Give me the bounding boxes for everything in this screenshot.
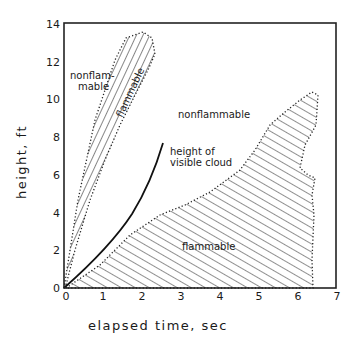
svg-text:6: 6 xyxy=(295,290,302,303)
annotation-nonflammable-left-2: mable xyxy=(78,81,109,92)
svg-text:14: 14 xyxy=(46,18,60,31)
y-axis-title: height, ft xyxy=(14,125,29,199)
svg-text:2: 2 xyxy=(139,290,146,303)
annotation-cloud-2: visible cloud xyxy=(170,157,232,168)
svg-text:7: 7 xyxy=(334,290,341,303)
annotation-nonflammable-right: nonflammable xyxy=(178,109,250,120)
x-axis-title: elapsed time, sec xyxy=(88,318,228,333)
svg-text:0: 0 xyxy=(53,282,60,295)
annotation-cloud-1: height of xyxy=(170,146,215,157)
svg-text:4: 4 xyxy=(217,290,224,303)
svg-text:8: 8 xyxy=(53,131,60,144)
y-axis-ticks: 0 2 4 6 8 10 12 14 xyxy=(46,18,60,295)
svg-text:6: 6 xyxy=(53,169,60,182)
svg-text:0: 0 xyxy=(63,290,70,303)
svg-text:4: 4 xyxy=(53,207,60,220)
svg-text:1: 1 xyxy=(100,290,107,303)
annotation-flammable-lower: flammable xyxy=(182,241,235,252)
chart-canvas: 0 2 4 6 8 10 12 14 0 1 2 3 4 5 6 7 elaps… xyxy=(0,0,358,351)
svg-text:2: 2 xyxy=(53,244,60,257)
svg-text:5: 5 xyxy=(256,290,263,303)
svg-text:3: 3 xyxy=(178,290,185,303)
svg-text:12: 12 xyxy=(46,56,60,69)
svg-text:10: 10 xyxy=(46,93,60,106)
x-axis-ticks: 0 1 2 3 4 5 6 7 xyxy=(63,290,341,303)
annotation-nonflammable-left-1: nonflam- xyxy=(70,70,115,81)
